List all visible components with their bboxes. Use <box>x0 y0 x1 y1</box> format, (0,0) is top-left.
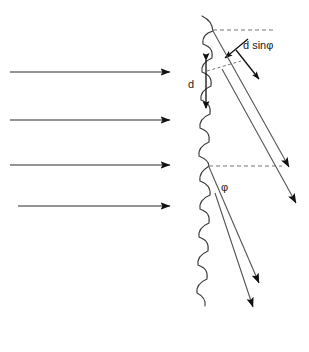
dashed-path-segment <box>207 61 241 71</box>
bragg-diffraction-diagram: d sinφ d φ <box>0 0 309 352</box>
diffracted-ray-2 <box>222 69 296 203</box>
angle-label: φ <box>221 181 228 193</box>
spacing-label: d <box>188 78 194 90</box>
incident-ray-group <box>10 72 170 206</box>
diagram-canvas: d sinφ d φ <box>0 0 309 352</box>
diffracted-ray-3 <box>209 167 259 283</box>
path-difference-label: d sinφ <box>243 39 273 51</box>
diffracted-ray-1 <box>213 31 289 167</box>
path-difference-arrow-lower <box>236 50 259 79</box>
crystal-surface <box>197 16 213 306</box>
diffracted-ray-group <box>209 31 296 307</box>
diffracted-ray-4 <box>215 193 253 307</box>
crystal-surface-path <box>197 16 213 306</box>
